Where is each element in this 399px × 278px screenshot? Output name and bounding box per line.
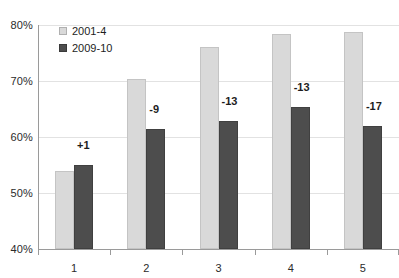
x-tick-label: 5 bbox=[327, 262, 399, 274]
bar-series-2009-10[interactable] bbox=[146, 129, 165, 249]
x-axis-cell: 4 bbox=[255, 250, 327, 278]
bar-group: -13 bbox=[182, 25, 254, 249]
x-tick-label: 3 bbox=[182, 262, 254, 274]
y-tick-label: 50% bbox=[10, 187, 33, 199]
bar-series-2001-4[interactable] bbox=[200, 47, 219, 249]
bar-series-2009-10[interactable] bbox=[363, 126, 382, 249]
x-axis-cell: 5 bbox=[327, 250, 399, 278]
x-tick-label: 1 bbox=[38, 262, 110, 274]
bar-series-2009-10[interactable] bbox=[291, 107, 310, 249]
delta-label: -13 bbox=[222, 95, 238, 107]
bar-series-2001-4[interactable] bbox=[55, 171, 74, 249]
bar-group: -13 bbox=[255, 25, 327, 249]
bar-group: -9 bbox=[110, 25, 182, 249]
y-axis: 80% 70% 60% 50% 40% bbox=[0, 0, 38, 278]
x-tick-mark bbox=[182, 250, 183, 255]
delta-label: -9 bbox=[149, 103, 159, 115]
y-tick-label: 80% bbox=[10, 19, 33, 31]
x-tick-mark bbox=[110, 250, 111, 255]
y-tick-label: 60% bbox=[10, 131, 33, 143]
legend-item-2009-10[interactable]: 2009-10 bbox=[59, 39, 112, 56]
x-axis: 1 2 3 4 5 bbox=[38, 250, 399, 278]
legend-item-2001-4[interactable]: 2001-4 bbox=[59, 22, 112, 39]
delta-label: -17 bbox=[366, 100, 382, 112]
delta-label: -13 bbox=[294, 81, 310, 93]
bar-series-2009-10[interactable] bbox=[74, 165, 93, 249]
legend-swatch-icon bbox=[59, 44, 67, 52]
x-axis-cell: 3 bbox=[182, 250, 254, 278]
bar-series-2001-4[interactable] bbox=[272, 34, 291, 249]
x-axis-cell: 1 bbox=[38, 250, 110, 278]
x-tick-label: 4 bbox=[255, 262, 327, 274]
x-tick-label: 2 bbox=[110, 262, 182, 274]
legend-label: 2001-4 bbox=[72, 25, 106, 37]
bar-groups: +1 -9 -13 -13 -17 bbox=[38, 25, 399, 249]
x-tick-mark bbox=[327, 250, 328, 255]
y-tick-label: 70% bbox=[10, 75, 33, 87]
bar-chart: 80% 70% 60% 50% 40% +1 -9 -13 bbox=[0, 0, 399, 278]
legend: 2001-4 2009-10 bbox=[59, 22, 112, 56]
x-axis-cell: 2 bbox=[110, 250, 182, 278]
bar-group: +1 bbox=[38, 25, 110, 249]
y-tick-label: 40% bbox=[10, 243, 33, 255]
bar-series-2001-4[interactable] bbox=[344, 32, 363, 249]
x-tick-mark bbox=[255, 250, 256, 255]
bar-series-2001-4[interactable] bbox=[127, 79, 146, 249]
bar-series-2009-10[interactable] bbox=[219, 121, 238, 249]
delta-label: +1 bbox=[77, 139, 90, 151]
bar-group: -17 bbox=[327, 25, 399, 249]
legend-label: 2009-10 bbox=[72, 42, 112, 54]
legend-swatch-icon bbox=[59, 27, 67, 35]
x-tick-mark bbox=[38, 250, 39, 255]
